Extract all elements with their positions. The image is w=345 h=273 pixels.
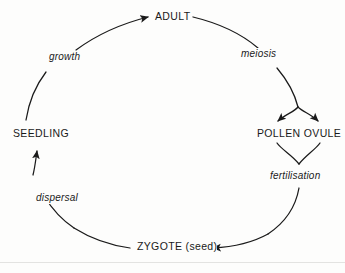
process-label-growth: growth: [48, 51, 81, 63]
arc-fork-to-ovule: [298, 107, 318, 121]
stage-label-seedling: SEEDLING: [13, 127, 69, 139]
process-label-meiosis: meiosis: [240, 48, 277, 60]
arc-fertilisation: [268, 188, 299, 234]
arc-dispersal-to-seedling: [33, 151, 37, 175]
scan-artifact-line: [0, 262, 345, 263]
arc-fork-to-pollen: [278, 107, 298, 121]
arc-pollen-to-merge: [277, 143, 299, 164]
diagram-canvas: ADULT POLLEN OVULE ZYGOTE (seed) SEEDLIN…: [0, 0, 345, 273]
stage-label-zygote: ZYGOTE (seed): [137, 240, 217, 252]
arc-dispersal-lower: [74, 228, 130, 248]
arc-meiosis-lower: [277, 68, 298, 107]
stage-label-adult: ADULT: [155, 10, 190, 22]
stage-label-pollen-ovule: POLLEN OVULE: [257, 127, 341, 139]
arc-growth-lower: [26, 72, 46, 120]
arc-meiosis-upper: [193, 17, 258, 48]
process-label-dispersal: dispersal: [35, 192, 79, 204]
arc-ovule-to-merge: [299, 143, 320, 164]
process-label-fertilisation: fertilisation: [269, 170, 321, 182]
arc-fertilisation-to-zygote: [213, 234, 268, 248]
arc-growth-upper: [76, 17, 148, 50]
